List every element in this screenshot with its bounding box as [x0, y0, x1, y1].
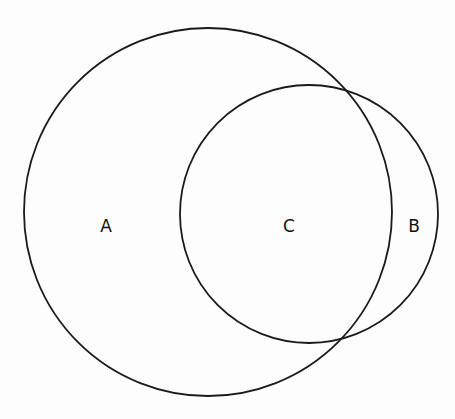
venn-diagram — [0, 0, 455, 419]
label-c: C — [283, 216, 295, 236]
label-b: B — [408, 216, 420, 236]
label-a: A — [100, 216, 112, 236]
circle-b — [180, 85, 438, 343]
